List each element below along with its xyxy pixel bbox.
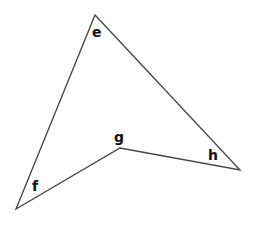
diagram-canvas: e h g f [0, 0, 254, 226]
vertex-label-f: f [32, 178, 39, 194]
vertex-label-h: h [208, 147, 218, 163]
vertex-label-g: g [114, 129, 124, 145]
vertex-label-e: e [92, 24, 102, 40]
quadrilateral-efgh [16, 15, 240, 209]
